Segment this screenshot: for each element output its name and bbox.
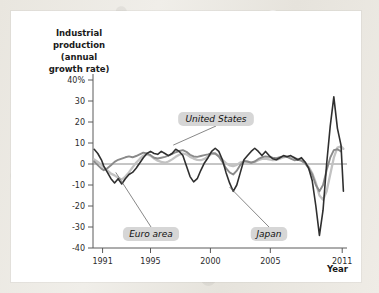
y-axis-title-line-1: production	[53, 40, 105, 50]
line-chart: Industrial production (annual growth rat…	[11, 11, 361, 282]
y-axis-tick-label: -30	[72, 223, 85, 232]
annotation-leader-japan	[230, 187, 269, 227]
chart-figure: Industrial production (annual growth rat…	[11, 11, 361, 282]
figure-card: Industrial production (annual growth rat…	[11, 11, 361, 282]
annotation-leader-united-states	[173, 126, 216, 145]
y-axis-tick-label: -20	[72, 202, 85, 211]
annotation-label-united-states: United States	[186, 114, 247, 124]
x-axis-tick-label: 1991	[92, 257, 112, 266]
y-axis-tick-label: 30	[75, 97, 85, 106]
plot-area: 40%3020100-10-20-30-40199119952000200520…	[67, 74, 352, 266]
y-axis-tick-label: 20	[75, 118, 85, 127]
annotation-label-euro-area: Euro area	[129, 229, 173, 239]
annotation-leader-euro-area	[116, 172, 151, 227]
x-axis-tick-label: 2000	[200, 257, 220, 266]
y-axis-tick-label: 0	[80, 160, 85, 169]
y-axis-tick-label: 10	[75, 139, 85, 148]
y-axis-title-line-3: growth rate)	[49, 64, 110, 74]
y-axis-tick-label: 40%	[67, 76, 85, 85]
y-axis-title-line-2: (annual	[61, 52, 98, 62]
y-axis-title-line-0: Industrial	[56, 28, 102, 38]
annotation-label-japan: Japan	[254, 229, 281, 239]
y-axis-title: Industrial production (annual growth rat…	[49, 28, 110, 74]
y-axis-tick-label: -40	[72, 244, 85, 253]
x-axis-name: Year	[326, 264, 349, 274]
x-axis-tick-label: 1995	[140, 257, 160, 266]
x-axis-tick-label: 2005	[260, 257, 280, 266]
y-axis-tick-label: -10	[72, 181, 85, 190]
